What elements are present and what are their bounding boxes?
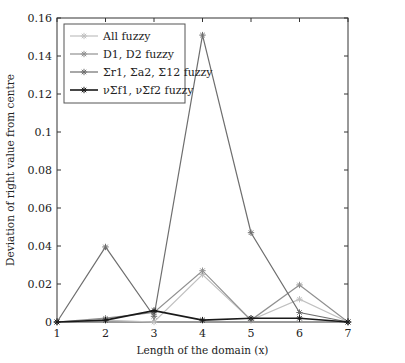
x-tick-label: 4 <box>199 327 206 340</box>
y-tick-label: 0.1 <box>35 126 53 139</box>
y-tick-label: 0.04 <box>28 240 53 253</box>
y-tick-label: 0.12 <box>28 88 53 101</box>
x-tick-label: 5 <box>248 327 255 340</box>
y-tick-label: 0.14 <box>28 50 53 63</box>
x-tick-label: 6 <box>296 327 303 340</box>
legend-entry-0: All fuzzy <box>102 30 151 43</box>
legend-entry-1: D1, D2 fuzzy <box>103 48 175 61</box>
x-tick-label: 2 <box>102 327 109 340</box>
y-axis-label: Deviation of right value from centre <box>4 74 16 266</box>
legend-entry-3: νΣf1, νΣf2 fuzzy <box>103 84 194 97</box>
y-tick-label: 0.02 <box>28 278 53 291</box>
legend: All fuzzyD1, D2 fuzzyΣr1, Σa2, Σ12 fuzzy… <box>64 24 213 103</box>
x-axis-label: Length of the domain (x) <box>137 344 269 356</box>
x-tick-label: 7 <box>345 327 352 340</box>
y-tick-label: 0.16 <box>28 12 53 25</box>
series-line-3 <box>54 307 351 325</box>
x-tick-label: 1 <box>54 327 61 340</box>
y-tick-label: 0 <box>45 316 52 329</box>
x-tick-label: 3 <box>151 327 158 340</box>
legend-entry-2: Σr1, Σa2, Σ12 fuzzy <box>103 66 213 79</box>
y-tick-label: 0.08 <box>28 164 53 177</box>
y-tick-label: 0.06 <box>28 202 53 215</box>
line-chart: 00.020.040.060.080.10.120.140.161234567L… <box>0 0 405 363</box>
